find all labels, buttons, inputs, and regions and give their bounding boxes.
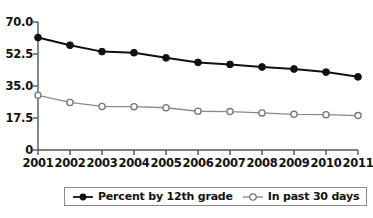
data-point[interactable] (67, 99, 73, 105)
x-tick-label: 2003 (87, 156, 118, 170)
data-point[interactable] (195, 59, 202, 66)
data-point[interactable] (323, 69, 330, 76)
axis-lines (38, 22, 358, 150)
x-tick-label: 2001 (23, 156, 54, 170)
series-secondary (35, 92, 361, 118)
legend-label-primary: Percent by 12th grade (98, 190, 233, 203)
x-tick-label: 2005 (151, 156, 182, 170)
data-point[interactable] (291, 111, 297, 117)
x-tick-marks (38, 150, 358, 155)
data-point[interactable] (99, 48, 106, 55)
data-point[interactable] (291, 66, 298, 73)
data-point[interactable] (35, 34, 42, 41)
series-line (38, 38, 358, 77)
x-tick-label: 2007 (215, 156, 246, 170)
data-point[interactable] (131, 49, 138, 56)
data-point[interactable] (355, 113, 361, 119)
filled-circle-marker-icon (72, 191, 94, 203)
x-tick-label: 2006 (183, 156, 214, 170)
data-point[interactable] (99, 103, 105, 109)
x-tick-label: 2004 (119, 156, 150, 170)
x-axis-labels: 2001200220032004200520062007200820092010… (0, 156, 372, 174)
series-primary (35, 34, 362, 80)
data-point[interactable] (163, 105, 169, 111)
data-point[interactable] (259, 110, 265, 116)
data-point[interactable] (227, 109, 233, 115)
data-point[interactable] (259, 64, 266, 71)
data-point[interactable] (163, 54, 170, 61)
x-tick-label: 2010 (311, 156, 342, 170)
data-series-layer (35, 34, 362, 119)
data-point[interactable] (355, 73, 362, 80)
data-point[interactable] (227, 61, 234, 68)
legend-item-in-past-30-days[interactable]: In past 30 days (242, 190, 360, 203)
data-point[interactable] (195, 108, 201, 114)
legend-item-percent-by-12th-grade[interactable]: Percent by 12th grade (72, 190, 233, 203)
data-point[interactable] (35, 92, 41, 98)
x-tick-label: 2002 (55, 156, 86, 170)
data-point[interactable] (323, 112, 329, 118)
open-circle-marker-icon (242, 191, 264, 203)
x-tick-label: 2008 (247, 156, 278, 170)
legend-label-secondary: In past 30 days (268, 190, 360, 203)
x-tick-label: 2011 (343, 156, 373, 170)
chart-legend: Percent by 12th grade In past 30 days (64, 187, 367, 206)
data-point[interactable] (131, 104, 137, 110)
data-point[interactable] (67, 42, 74, 49)
x-tick-label: 2009 (279, 156, 310, 170)
